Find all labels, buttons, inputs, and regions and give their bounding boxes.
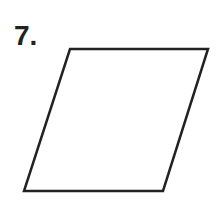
parallelogram-figure xyxy=(0,0,221,210)
parallelogram-shape xyxy=(24,49,208,191)
